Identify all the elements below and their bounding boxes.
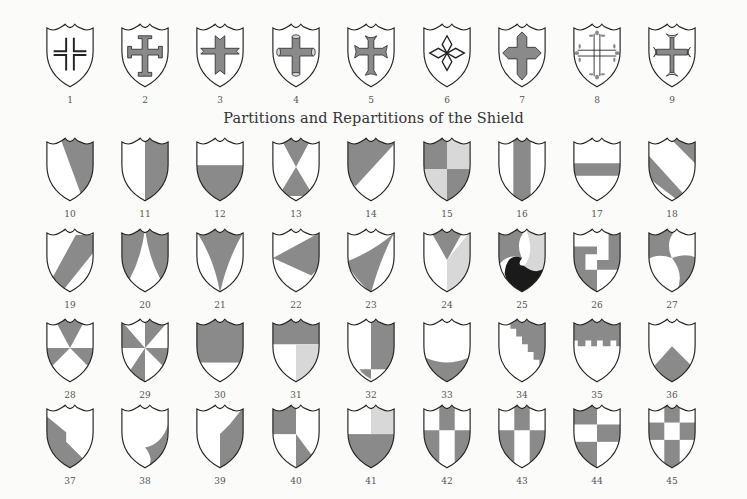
shield-icon [345,227,397,295]
shield-24: 24 [417,227,477,310]
shield-icon [571,22,623,90]
shield-icon [496,227,548,295]
shield-3: 3 [190,22,250,105]
shield-icon [270,317,322,385]
shield-number: 35 [567,390,627,400]
shield-7: 7 [492,22,552,105]
shield-43: 43 [492,403,552,486]
shield-6: 6 [417,22,477,105]
shield-number: 13 [266,209,326,219]
shield-icon [270,403,322,471]
shield-icon [119,317,171,385]
shield-number: 11 [115,209,175,219]
shield-number: 15 [417,209,477,219]
shield-number: 30 [190,390,250,400]
shield-number: 26 [567,300,627,310]
shield-33: 33 [417,317,477,400]
shield-number: 42 [417,476,477,486]
shield-21: 21 [190,227,250,310]
shield-4: 4 [266,22,326,105]
shield-number: 7 [492,95,552,105]
shield-icon [194,227,246,295]
shield-number: 2 [115,95,175,105]
shield-icon [44,227,96,295]
shield-number: 32 [341,390,401,400]
shield-icon [119,403,171,471]
shield-number: 44 [567,476,627,486]
shield-number: 31 [266,390,326,400]
shield-number: 40 [266,476,326,486]
shield-number: 22 [266,300,326,310]
shield-number: 27 [642,300,702,310]
shield-icon [496,403,548,471]
shield-icon [194,403,246,471]
shield-icon [194,136,246,204]
shield-icon [270,227,322,295]
shield-number: 38 [115,476,175,486]
shield-40: 40 [266,403,326,486]
shield-icon [646,227,698,295]
shield-20: 20 [115,227,175,310]
shield-icon [345,22,397,90]
shield-icon [571,227,623,295]
shield-number: 29 [115,390,175,400]
shield-icon [421,403,473,471]
shield-number: 24 [417,300,477,310]
shield-number: 10 [40,209,100,219]
shield-number: 25 [492,300,552,310]
shield-number: 37 [40,476,100,486]
shield-number: 43 [492,476,552,486]
shield-icon [194,22,246,90]
shield-icon [496,136,548,204]
shield-icon [44,22,96,90]
shield-28: 28 [40,317,100,400]
shield-number: 5 [341,95,401,105]
shield-number: 45 [642,476,702,486]
shield-14: 14 [341,136,401,219]
shield-11: 11 [115,136,175,219]
shield-15: 15 [417,136,477,219]
shield-number: 16 [492,209,552,219]
shield-35: 35 [567,317,627,400]
shield-number: 12 [190,209,250,219]
shield-42: 42 [417,403,477,486]
shield-number: 36 [642,390,702,400]
shield-number: 14 [341,209,401,219]
shield-number: 1 [40,95,100,105]
shield-45: 45 [642,403,702,486]
shield-icon [571,317,623,385]
shield-icon [646,22,698,90]
shield-number: 33 [417,390,477,400]
shield-icon [496,317,548,385]
shield-icon [496,22,548,90]
shield-2: 2 [115,22,175,105]
shield-icon [421,317,473,385]
shield-icon [270,136,322,204]
shield-number: 4 [266,95,326,105]
shield-32: 32 [341,317,401,400]
shield-30: 30 [190,317,250,400]
shield-icon [44,317,96,385]
shield-icon [571,403,623,471]
shield-icon [119,22,171,90]
shield-38: 38 [115,403,175,486]
shield-icon [270,22,322,90]
shield-icon [571,136,623,204]
shield-number: 9 [642,95,702,105]
shield-18: 18 [642,136,702,219]
shield-number: 6 [417,95,477,105]
shield-39: 39 [190,403,250,486]
shield-icon [44,136,96,204]
shield-icon [119,136,171,204]
shield-number: 18 [642,209,702,219]
shield-icon [646,403,698,471]
shield-icon [421,22,473,90]
shield-8: 8 [567,22,627,105]
shield-number: 34 [492,390,552,400]
shield-25: 25 [492,227,552,310]
shield-36: 36 [642,317,702,400]
shield-number: 19 [40,300,100,310]
shield-icon [345,317,397,385]
shield-9: 9 [642,22,702,105]
shield-icon [646,136,698,204]
